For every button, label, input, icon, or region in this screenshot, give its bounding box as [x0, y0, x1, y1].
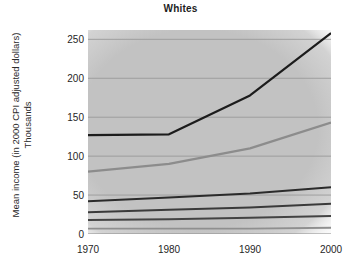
plot-svg	[88, 30, 331, 234]
y-tick-150: 150	[50, 112, 84, 123]
y-tick-50: 50	[50, 190, 84, 201]
x-tick-1970: 1970	[77, 244, 99, 255]
y-axis-label-line2: Thousands	[22, 14, 34, 236]
y-axis-label: Mean income (in 2000 CPI adjusted dollar…	[10, 14, 36, 236]
y-axis-tick-labels: 050100150200250	[50, 0, 84, 279]
plot-area	[88, 30, 331, 234]
x-tick-1980: 1980	[158, 244, 180, 255]
y-axis-label-line1: Mean income (in 2000 CPI adjusted dollar…	[10, 14, 22, 236]
x-tick-1990: 1990	[239, 244, 261, 255]
series-line-lowest-quintile	[88, 228, 331, 229]
y-tick-100: 100	[50, 151, 84, 162]
x-tick-2000: 2000	[320, 244, 342, 255]
y-tick-250: 250	[50, 34, 84, 45]
y-tick-0: 0	[50, 229, 84, 240]
y-tick-200: 200	[50, 73, 84, 84]
chart-figure: Whites Mean income (in 2000 CPI adjusted…	[0, 0, 361, 279]
